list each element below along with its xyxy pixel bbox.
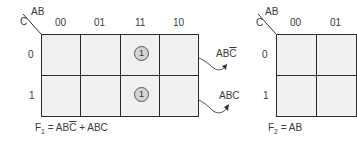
cell-0-00 [41,34,81,76]
row-variable-label: C [20,16,27,27]
term-label-abc-bar: ABC [216,48,237,59]
equation-f1: F1 = ABC + ABC [35,122,108,135]
cell-1-01 [80,75,121,117]
minterm-marker: 1 [134,87,149,102]
cell-0-00 [276,34,317,76]
row-variable-label: C [256,17,263,28]
col-header-01: 01 [330,17,341,28]
col-header-11: 11 [135,17,145,28]
term-label-abc: ABC [219,90,240,101]
row-header-1: 1 [29,90,35,101]
cell-1-00 [276,75,317,117]
cell-0-10 [159,34,199,76]
row-header-0: 0 [28,49,34,60]
equation-f2: F2 = AB [268,122,302,135]
col-header-10: 10 [173,17,184,28]
row-header-1: 1 [263,90,269,101]
col-header-00: 00 [290,17,301,28]
cell-1-10 [159,75,199,117]
minterm-marker: 1 [134,46,149,61]
row-header-0: 0 [262,49,268,60]
cell-1-01 [316,75,357,117]
cell-0-01 [316,34,357,76]
col-variable-label: AB [265,6,278,17]
col-variable-label: AB [31,6,44,17]
col-header-01: 01 [94,17,105,28]
cell-0-01 [80,34,121,76]
cell-1-00 [41,75,81,117]
col-header-00: 00 [55,17,66,28]
